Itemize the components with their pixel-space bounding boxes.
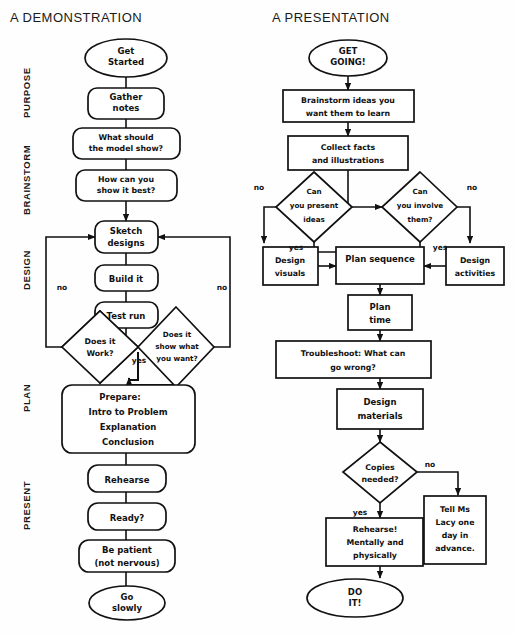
node-label: IT! [349, 598, 362, 608]
edge-label-no-left: no [57, 283, 68, 292]
node-label: slowly [112, 603, 143, 613]
node-label: Started [108, 57, 144, 67]
node-label: Troubleshoot: What can [301, 349, 406, 358]
phase-label-plan: PLAN [21, 384, 32, 412]
node-get-started[interactable]: Get Started [85, 39, 167, 77]
node-label: show it best? [97, 186, 156, 195]
node-label: Build it [109, 274, 143, 284]
node-design-materials[interactable]: Design materials [337, 389, 423, 429]
flowchart-canvas: A DEMONSTRATION PURPOSE BRAINSTORM DESIG… [0, 0, 515, 636]
node-label: (not nervous) [94, 558, 159, 568]
node-do-it[interactable]: DO IT! [307, 579, 403, 617]
node-label: want them to learn [306, 109, 390, 118]
node-build-it[interactable]: Build it [95, 265, 158, 291]
node-rehearse-mentally-physically[interactable]: Rehearse! Mentally and physically [326, 518, 423, 566]
node-label: Lacy one [436, 518, 475, 527]
edge-label-yes-left: yes [289, 243, 304, 252]
node-label: Brainstorm ideas you [301, 96, 395, 105]
node-label: materials [357, 411, 402, 421]
right-chart-title: A PRESENTATION [272, 10, 390, 25]
node-what-should-model-show[interactable]: What should the model show? [73, 128, 180, 159]
node-label: Explanation [100, 422, 157, 432]
node-label: DO [348, 587, 362, 597]
edge-label-no-right: no [217, 283, 228, 292]
node-brainstorm-ideas[interactable]: Brainstorm ideas you want them to learn [283, 90, 414, 122]
node-label: visuals [275, 269, 306, 278]
node-label: day in [442, 531, 469, 540]
node-label: Gather [110, 92, 144, 102]
node-be-patient[interactable]: Be patient (not nervous) [79, 540, 175, 572]
node-label: Prepare: [99, 392, 140, 402]
node-go-slowly[interactable]: Go slowly [89, 586, 165, 620]
node-label: and illustrations [312, 156, 384, 165]
node-label: ideas [303, 215, 325, 224]
node-label: Intro to Problem [88, 407, 167, 417]
node-get-going[interactable]: GET GOING! [309, 40, 387, 76]
node-label: designs [107, 238, 144, 248]
node-design-activities[interactable]: Design activities [446, 247, 504, 285]
phase-label-brainstorm: BRAINSTORM [21, 145, 32, 215]
node-label: Rehearse! [353, 525, 398, 534]
node-label: Mentally and [346, 538, 403, 547]
node-label: Design [275, 256, 305, 265]
left-chart-title: A DEMONSTRATION [10, 10, 142, 25]
node-gather-notes[interactable]: Gather notes [88, 88, 164, 119]
phase-label-purpose: PURPOSE [21, 67, 32, 118]
node-label: activities [455, 269, 496, 278]
node-label: Be patient [102, 545, 152, 555]
node-label: Can [412, 187, 427, 196]
edge-label-no-copies: no [425, 460, 436, 469]
node-label: physically [353, 551, 397, 560]
node-label: Get [118, 46, 135, 56]
node-label: you present [290, 201, 339, 210]
node-label: Work? [86, 349, 114, 358]
node-label: GET [339, 46, 358, 56]
node-plan-time[interactable]: Plan time [348, 295, 412, 330]
edge-label-yes-right: yes [433, 243, 448, 252]
edge-label-no-far-right: no [467, 183, 478, 192]
node-label: the model show? [89, 144, 164, 153]
flowchart-page: A DEMONSTRATION PURPOSE BRAINSTORM DESIG… [0, 0, 515, 636]
node-label: Can [306, 187, 321, 196]
node-label: GOING! [330, 57, 365, 67]
phase-label-design: DESIGN [21, 250, 32, 290]
node-label: you want? [156, 354, 197, 363]
node-label: Plan sequence [345, 254, 415, 264]
edge-label-no-far-left: no [254, 183, 265, 192]
node-label: Copies [365, 463, 395, 472]
node-label: Conclusion [102, 437, 154, 447]
node-label: Ready? [110, 513, 145, 523]
node-label: you involve [397, 201, 444, 210]
node-plan-sequence[interactable]: Plan sequence [336, 247, 424, 284]
node-troubleshoot[interactable]: Troubleshoot: What can go wrong? [276, 341, 431, 378]
node-ready[interactable]: Ready? [88, 503, 166, 530]
node-label: needed? [361, 475, 399, 484]
node-rehearse[interactable]: Rehearse [88, 465, 166, 492]
node-label: Rehearse [105, 475, 150, 485]
node-label: Sketch [110, 226, 142, 236]
node-label: go wrong? [330, 363, 376, 372]
node-label: Design [364, 397, 397, 407]
node-label: What should [98, 133, 153, 142]
node-label: Plan [370, 302, 391, 312]
node-label: Go [121, 592, 134, 602]
node-label: time [369, 315, 391, 325]
node-label: Does it [163, 330, 192, 339]
node-sketch-designs[interactable]: Sketch designs [95, 221, 158, 253]
node-how-show-it-best[interactable]: How can you show it best? [76, 170, 177, 201]
node-label: notes [113, 103, 140, 113]
node-label: Design [460, 256, 490, 265]
node-tell-ms-lacy[interactable]: Tell Ms Lacy one day in advance. [424, 496, 486, 564]
node-label: advance. [435, 544, 475, 553]
node-label: How can you [98, 175, 154, 184]
edge-label-yes-copies: yes [353, 508, 368, 517]
node-label: Collect facts [321, 143, 376, 152]
edge-label-yes-center: yes [132, 356, 147, 365]
node-design-visuals[interactable]: Design visuals [263, 247, 318, 285]
node-label: them? [407, 215, 432, 224]
phase-label-present: PRESENT [21, 481, 32, 530]
node-label: Test run [107, 311, 146, 321]
node-prepare-block[interactable]: Prepare: Intro to Problem Explanation Co… [62, 385, 195, 453]
node-label: show what [155, 342, 199, 351]
node-collect-facts[interactable]: Collect facts and illustrations [288, 136, 408, 170]
